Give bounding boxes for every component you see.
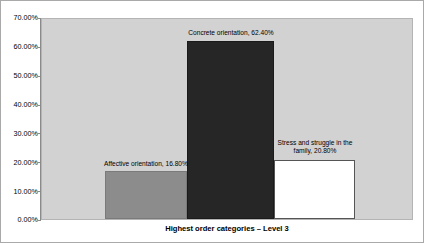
data-label-stress-and-struggle: Stress and struggle in the family, 20.80…: [271, 139, 359, 155]
plot-area: Affective orientation, 16.80% Concrete o…: [41, 18, 413, 220]
data-label-affective-orientation: Affective orientation, 16.80%: [95, 160, 197, 168]
data-label-stress-line1: Stress and struggle in the: [278, 139, 353, 146]
y-axis-tick-label: 20.00%: [14, 159, 41, 166]
bar-concrete-orientation[interactable]: [187, 41, 274, 219]
y-axis: 70.00%60.00%50.00%40.00%30.00%20.00%10.0…: [1, 18, 41, 220]
chart-frame: 70.00%60.00%50.00%40.00%30.00%20.00%10.0…: [0, 0, 424, 243]
bar-stress-and-struggle-in-the-family[interactable]: [274, 160, 355, 219]
y-axis-tick-mark: [38, 220, 41, 221]
data-label-concrete-orientation: Concrete orientation, 62.40%: [180, 29, 282, 37]
y-axis-tick-label: 50.00%: [14, 72, 41, 79]
data-label-stress-line2: family, 20.80%: [294, 147, 337, 154]
y-axis-tick-label: 40.00%: [14, 101, 41, 108]
bar-affective-orientation[interactable]: [105, 171, 187, 219]
x-axis-title: Highest order categories – Level 3: [41, 225, 413, 233]
y-axis-tick-label: 60.00%: [14, 43, 41, 50]
y-axis-tick-label: 30.00%: [14, 130, 41, 137]
y-axis-tick-label: 70.00%: [14, 14, 41, 21]
y-axis-tick-label: 10.00%: [14, 188, 41, 195]
